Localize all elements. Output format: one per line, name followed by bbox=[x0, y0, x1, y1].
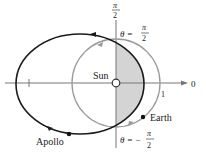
earth-marker bbox=[141, 115, 145, 119]
earth-label: Earth bbox=[150, 112, 172, 123]
unit-tick-label: 1 bbox=[161, 90, 165, 99]
apollo-orbit-arrow-icon bbox=[47, 126, 53, 131]
apollo-marker bbox=[67, 132, 71, 136]
theta-top-den: 2 bbox=[142, 34, 146, 43]
polar-orbit-diagram: Sun Earth Apollo 0 1 π 2 θ = π 2 θ = − π… bbox=[0, 0, 206, 157]
sun-marker bbox=[112, 79, 120, 87]
theta-bottom-den: 2 bbox=[147, 141, 151, 150]
theta-bottom-num: π bbox=[147, 129, 152, 138]
vertical-axis-label-den: 2 bbox=[113, 11, 117, 20]
theta-bottom-prefix: θ = − bbox=[120, 135, 141, 145]
theta-top-prefix: θ = bbox=[120, 29, 133, 39]
apollo-label: Apollo bbox=[36, 136, 64, 147]
vertical-axis-label-num: π bbox=[113, 1, 118, 10]
polar-axis-arrow-icon bbox=[181, 81, 188, 86]
theta-top-num: π bbox=[142, 23, 147, 32]
polar-axis-label: 0 bbox=[191, 79, 196, 89]
sun-label: Sun bbox=[93, 70, 109, 81]
